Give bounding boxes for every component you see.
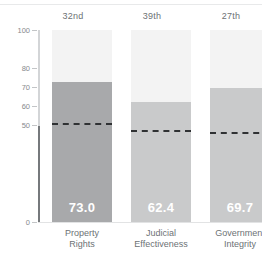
bar-value-property-rights: 73.0 bbox=[52, 200, 112, 215]
y-axis-spine-lower bbox=[38, 126, 40, 223]
ytick-mark-50 bbox=[32, 125, 37, 126]
ytick-mark-100 bbox=[32, 30, 37, 31]
y-axis-spine-upper bbox=[38, 30, 40, 126]
category-label-line-1: Judicial bbox=[120, 228, 202, 239]
category-label-property-rights: Property Rights bbox=[44, 228, 120, 249]
x-axis-baseline bbox=[38, 222, 262, 223]
reference-line-government-integrity bbox=[210, 132, 262, 134]
category-label-line-2: Integrity bbox=[200, 239, 262, 250]
category-label-line-2: Effectiveness bbox=[120, 239, 202, 250]
ytick-mark-0 bbox=[32, 222, 37, 223]
category-label-government-integrity: Government Integrity bbox=[200, 228, 262, 249]
plot-area: 100 80 70 60 50 0 73.0 62.4 69.7 bbox=[0, 0, 262, 263]
category-label-judicial-effectiveness: Judicial Effectiveness bbox=[120, 228, 202, 249]
bar-value-government-integrity: 69.7 bbox=[210, 200, 262, 215]
ytick-mark-80 bbox=[32, 68, 37, 69]
ytick-label-0: 0 bbox=[8, 219, 30, 227]
ytick-label-50: 50 bbox=[8, 122, 30, 130]
ytick-label-80: 80 bbox=[8, 65, 30, 73]
category-label-line-1: Property bbox=[44, 228, 120, 239]
bar-value-judicial-effectiveness: 62.4 bbox=[131, 200, 191, 215]
reference-line-judicial-effectiveness bbox=[131, 130, 191, 132]
ytick-label-100: 100 bbox=[8, 27, 30, 35]
category-label-line-2: Rights bbox=[44, 239, 120, 250]
ytick-mark-70 bbox=[32, 87, 37, 88]
ytick-mark-60 bbox=[32, 106, 37, 107]
bar-chart: 32nd 39th 27th 100 80 70 60 50 0 73.0 62… bbox=[0, 0, 262, 263]
ytick-label-70: 70 bbox=[8, 84, 30, 92]
ytick-label-60: 60 bbox=[8, 103, 30, 111]
reference-line-property-rights bbox=[52, 123, 112, 125]
category-label-line-1: Government bbox=[200, 228, 262, 239]
